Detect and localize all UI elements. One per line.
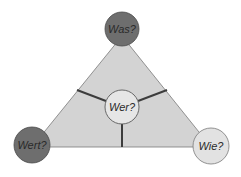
node-left: Wert? (14, 127, 50, 163)
triangle-diagram: Was? Wert? Wie? Wer? (0, 0, 241, 177)
node-center: Wer? (105, 90, 139, 124)
node-right-label: Wie? (199, 140, 225, 152)
node-top-label: Was? (108, 23, 137, 35)
node-top: Was? (105, 12, 139, 46)
node-center-label: Wer? (109, 101, 136, 113)
node-right: Wie? (193, 128, 229, 164)
node-left-label: Wert? (17, 139, 47, 151)
